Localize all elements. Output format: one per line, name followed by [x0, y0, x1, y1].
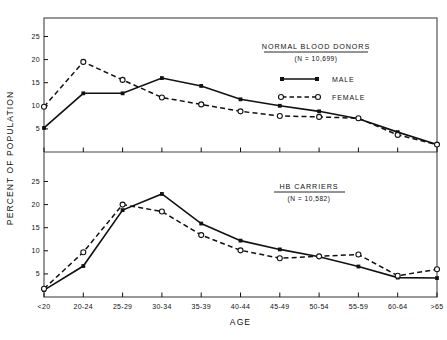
marker-male	[81, 91, 85, 95]
panel-subtitle: (N = 10,699)	[295, 55, 338, 63]
marker-female	[395, 273, 400, 278]
marker-female	[435, 267, 440, 272]
x-tick-label: <20	[38, 303, 51, 310]
marker-male	[435, 276, 439, 280]
marker-female	[277, 256, 282, 261]
y-tick-label: 15	[32, 224, 40, 231]
marker-female	[238, 248, 243, 253]
x-tick-label: 45-49	[270, 303, 289, 310]
panel-hb-carriers: 510152025	[32, 178, 440, 297]
y-axis-title: PERCENT OF POPULATION	[5, 91, 15, 225]
marker-male	[278, 248, 282, 252]
marker-female	[356, 116, 361, 121]
marker-female	[120, 202, 125, 207]
marker-male	[81, 264, 85, 268]
panel-title: HB CARRIERS	[279, 182, 338, 191]
y-tick-label: 5	[36, 270, 40, 277]
marker-female	[120, 77, 125, 82]
legend-male-marker-start	[280, 77, 284, 81]
legend-male-marker-end	[315, 77, 319, 81]
marker-female	[317, 114, 322, 119]
marker-male	[121, 91, 125, 95]
marker-female	[356, 252, 361, 257]
x-tick-label: 40-44	[231, 303, 250, 310]
y-tick-label: 20	[32, 201, 40, 208]
panel-title: NORMAL BLOOD DONORS	[262, 42, 370, 51]
panel-subtitle: (N = 10,582)	[288, 195, 331, 203]
y-tick-label: 20	[32, 56, 40, 63]
marker-female	[238, 109, 243, 114]
series-line-female	[44, 205, 437, 289]
plot-frame	[44, 18, 437, 297]
marker-male	[239, 97, 243, 101]
series-line-female	[44, 62, 437, 145]
y-tick-label: 10	[32, 247, 40, 254]
legend: MALEFEMALE	[279, 76, 366, 101]
legend-female-marker-end	[316, 95, 321, 100]
y-tick-label: 10	[32, 102, 40, 109]
marker-male	[160, 76, 164, 80]
y-tick-label: 15	[32, 79, 40, 86]
y-tick-label: 25	[32, 33, 40, 40]
x-tick-label: 20-24	[74, 303, 93, 310]
legend-female-marker-start	[279, 95, 284, 100]
marker-female	[42, 104, 47, 109]
marker-male	[160, 192, 164, 196]
marker-female	[199, 233, 204, 238]
marker-male	[278, 104, 282, 108]
marker-male	[121, 208, 125, 212]
marker-female	[159, 95, 164, 100]
marker-female	[277, 113, 282, 118]
x-tick-label: 25-29	[113, 303, 132, 310]
marker-female	[199, 102, 204, 107]
marker-female	[81, 250, 86, 255]
chart-canvas: 510152025510152025NORMAL BLOOD DONORS(N …	[0, 0, 447, 340]
marker-female	[317, 254, 322, 259]
marker-female	[159, 209, 164, 214]
x-tick-label: 55-59	[349, 303, 368, 310]
x-tick-label: 60-64	[388, 303, 407, 310]
marker-male	[199, 222, 203, 226]
legend-male-label: MALE	[332, 76, 355, 83]
marker-female	[395, 132, 400, 137]
y-tick-label: 25	[32, 178, 40, 185]
marker-female	[42, 286, 47, 291]
marker-male	[357, 265, 361, 269]
x-tick-label: 50-54	[309, 303, 328, 310]
x-tick-label: 35-39	[191, 303, 210, 310]
marker-male	[317, 109, 321, 113]
x-axis-title: AGE	[230, 317, 251, 327]
y-tick-label: 5	[36, 125, 40, 132]
x-tick-label: >65	[431, 303, 444, 310]
marker-male	[199, 84, 203, 88]
chart-figure: 510152025510152025NORMAL BLOOD DONORS(N …	[0, 0, 447, 340]
marker-male	[239, 239, 243, 243]
legend-female-label: FEMALE	[332, 94, 365, 101]
marker-male	[42, 126, 46, 130]
marker-female	[435, 142, 440, 147]
marker-female	[81, 59, 86, 64]
panel-normal-blood-donors: 510152025	[32, 33, 440, 152]
x-tick-label: 30-34	[152, 303, 171, 310]
